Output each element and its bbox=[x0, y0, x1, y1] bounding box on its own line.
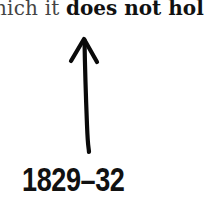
year-label: 1829–32 bbox=[22, 163, 124, 197]
